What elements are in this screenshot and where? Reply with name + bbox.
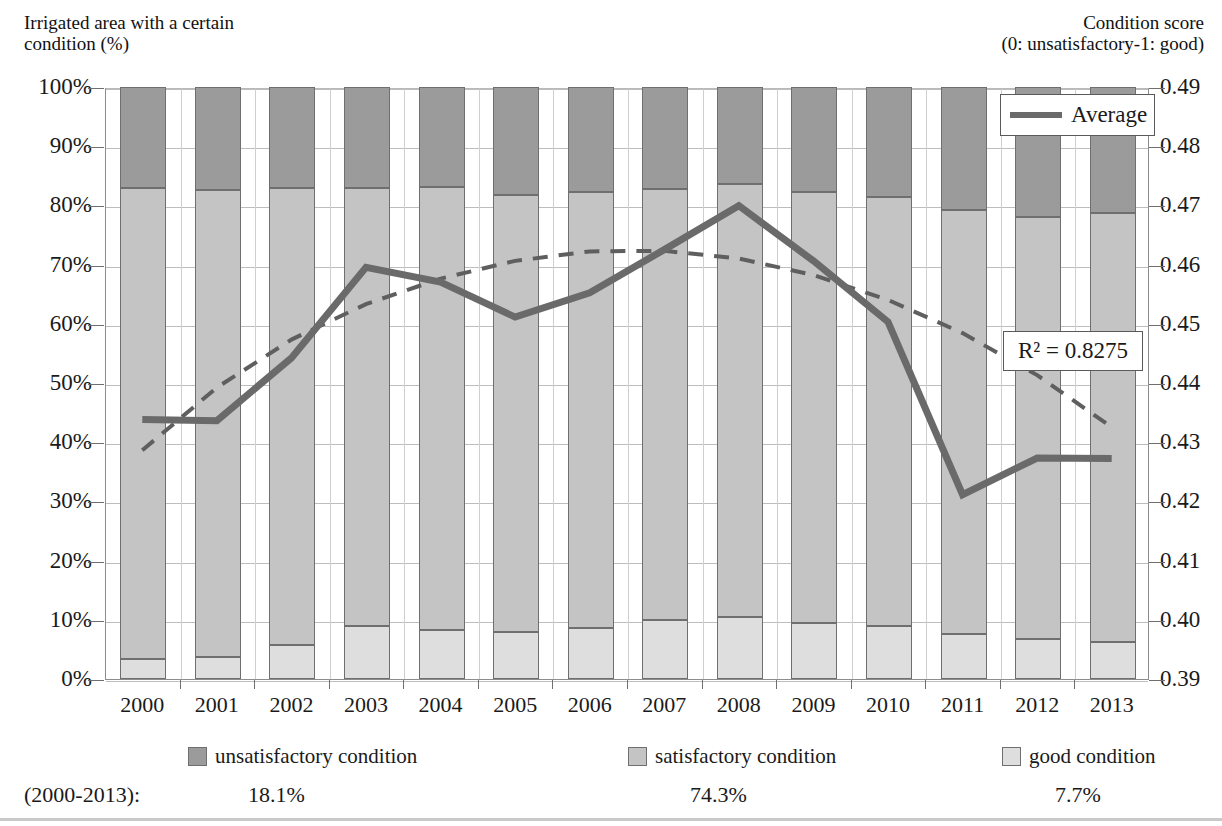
average-legend-label: Average [1071, 102, 1147, 128]
left-axis-tick-label: 10% [2, 608, 92, 631]
left-axis-tickmark [88, 562, 104, 563]
legend-label: unsatisfactory condition [215, 744, 417, 769]
vertical-gridline [553, 89, 554, 679]
stacked-bar [195, 87, 241, 679]
bar-segment [344, 188, 390, 626]
footer-period-label: (2000-2013): [24, 782, 140, 808]
left-axis-tickmark [88, 621, 104, 622]
stacked-bar [1015, 87, 1061, 679]
bar-segment [269, 87, 315, 188]
footer-average-value: 74.3% [690, 782, 747, 808]
bar-segment [1090, 213, 1136, 642]
bar-segment [717, 617, 763, 679]
right-axis-tick-label: 0.43 [1160, 430, 1222, 453]
left-axis-tickmark [88, 325, 104, 326]
x-axis-tickmark [1000, 680, 1001, 689]
left-axis-tickmark [88, 384, 104, 385]
vertical-gridline [628, 89, 629, 679]
right-axis-tick-label: 0.46 [1160, 253, 1222, 276]
bar-segment [642, 87, 688, 189]
bar-segment [1015, 639, 1061, 679]
bar-segment [344, 87, 390, 188]
left-axis-tickmark [88, 680, 104, 681]
bar-segment [1090, 642, 1136, 679]
right-axis-tickmark [1149, 147, 1165, 148]
right-axis-tick-label: 0.40 [1160, 608, 1222, 631]
right-axis-tickmark [1149, 325, 1165, 326]
gridline [106, 267, 1148, 268]
right-axis-tickmark [1149, 206, 1165, 207]
bar-segment [269, 188, 315, 645]
bar-segment [791, 192, 837, 623]
legend-item: unsatisfactory condition [188, 744, 417, 769]
left-axis-tick-label: 60% [2, 312, 92, 335]
stacked-bar [120, 87, 166, 679]
right-axis-tick-label: 0.42 [1160, 489, 1222, 512]
left-axis-tickmark [88, 266, 104, 267]
stacked-bar [791, 87, 837, 679]
left-axis-tick-label: 50% [2, 371, 92, 394]
vertical-gridline [1075, 89, 1076, 679]
bar-segment [419, 87, 465, 187]
stacked-bar [941, 87, 987, 679]
left-axis-tick-label: 90% [2, 134, 92, 157]
vertical-gridline [926, 89, 927, 679]
bar-segment [269, 645, 315, 679]
bar-segment [120, 87, 166, 188]
stacked-bar [642, 87, 688, 679]
stacked-bar [1090, 87, 1136, 679]
gridline [106, 444, 1148, 445]
gridline [106, 563, 1148, 564]
stacked-bar [344, 87, 390, 679]
bar-segment [717, 87, 763, 184]
legend-item: good condition [1002, 744, 1156, 769]
bottom-legend: unsatisfactory conditionsatisfactory con… [0, 744, 1222, 776]
average-line-swatch [1010, 112, 1062, 118]
bar-segment [866, 197, 912, 626]
x-axis-tickmark [254, 680, 255, 689]
x-axis-tick-label: 2013 [1067, 692, 1157, 718]
bar-segment [1015, 217, 1061, 639]
r-squared-annotation: R² = 0.8275 [1003, 331, 1143, 371]
left-axis-title: Irrigated area with a certain condition … [24, 12, 234, 55]
x-axis-tickmark [180, 680, 181, 689]
legend-color-swatch [628, 747, 647, 766]
bar-segment [791, 87, 837, 192]
bar-segment [493, 87, 539, 195]
right-axis-tickmark [1149, 266, 1165, 267]
right-axis-tickmark [1149, 562, 1165, 563]
gridline [106, 326, 1148, 327]
x-axis-tickmark [552, 680, 553, 689]
bar-segment [419, 187, 465, 630]
right-axis-tickmark [1149, 680, 1165, 681]
bar-segment [120, 659, 166, 679]
stacked-bar [568, 87, 614, 679]
legend-label: good condition [1029, 744, 1156, 769]
bar-segment [642, 189, 688, 620]
vertical-gridline [479, 89, 480, 679]
x-axis-tickmark [627, 680, 628, 689]
right-axis-tickmark [1149, 621, 1165, 622]
footer-average-value: 18.1% [248, 782, 305, 808]
stacked-bar [717, 87, 763, 679]
left-axis-tick-label: 70% [2, 253, 92, 276]
vertical-gridline [255, 89, 256, 679]
bar-segment [344, 626, 390, 679]
vertical-gridline [1001, 89, 1002, 679]
right-axis-tickmark [1149, 502, 1165, 503]
right-axis-tick-label: 0.41 [1160, 549, 1222, 572]
bar-segment [493, 195, 539, 632]
left-axis-tick-label: 30% [2, 489, 92, 512]
left-axis-tickmark [88, 88, 104, 89]
vertical-gridline [703, 89, 704, 679]
bar-segment [120, 188, 166, 659]
bar-segment [195, 87, 241, 190]
right-axis-tick-label: 0.39 [1160, 667, 1222, 690]
gridline [106, 385, 1148, 386]
right-axis-tickmark [1149, 384, 1165, 385]
stacked-bar [493, 87, 539, 679]
vertical-gridline [777, 89, 778, 679]
footer-summary-row: (2000-2013): 18.1%74.3%7.7% [0, 782, 1222, 816]
bar-segment [717, 184, 763, 617]
footer-average-value: 7.7% [1055, 782, 1101, 808]
